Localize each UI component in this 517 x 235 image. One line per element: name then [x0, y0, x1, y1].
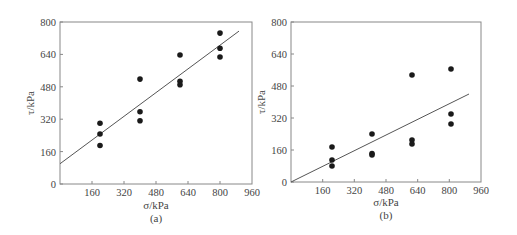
chart-b-ytick-label: 160	[271, 145, 287, 156]
chart-b-xtick-label: 480	[378, 185, 394, 196]
chart-a-xtick-label: 800	[212, 187, 228, 198]
chart-a-xtick-label: 160	[84, 187, 100, 198]
chart-b-ytick-label: 320	[271, 113, 287, 124]
chart-a-xaxis-title: σ/kPa	[143, 199, 169, 211]
chart-a-ytick-label: 640	[40, 49, 56, 60]
chart-a: 0 160 320 480 640 800 160 320 480 640 80…	[24, 17, 260, 225]
chart-b: 0 160 320 480 640 800 160 320 480 640 80…	[255, 17, 489, 222]
chart-a-ytick-label: 160	[40, 147, 56, 158]
chart-a-fit-line	[60, 31, 239, 164]
chart-b-yaxis-title: τ/kPa	[255, 90, 267, 114]
chart-b-ytick-label: 800	[271, 17, 287, 28]
chart-a-yaxis-title: τ/kPa	[24, 91, 36, 115]
chart-a-frame	[60, 22, 252, 184]
chart-b-xaxis-title: σ/kPa	[373, 196, 399, 208]
chart-b-ytick-label: 0	[282, 177, 287, 188]
chart-a-ytick-label: 480	[40, 82, 56, 93]
chart-b-ytick-label: 640	[271, 49, 287, 60]
chart-b-xtick-label: 320	[346, 185, 362, 196]
chart-a-xtick-label: 480	[148, 187, 164, 198]
chart-b-xtick-label: 800	[441, 185, 457, 196]
chart-a-xtick-label: 640	[180, 187, 196, 198]
chart-a-xtick-label: 320	[116, 187, 132, 198]
chart-a-panel-label: (a)	[150, 212, 163, 225]
chart-a-ytick-label: 320	[40, 114, 56, 125]
chart-b-xtick-label: 960	[473, 185, 489, 196]
chart-a-ytick-label: 0	[51, 179, 56, 190]
chart-a-xtick-label: 960	[244, 187, 260, 198]
chart-b-xtick-label: 640	[410, 185, 426, 196]
chart-b-panel-label: (b)	[380, 209, 393, 222]
chart-b-ytick-label: 480	[271, 81, 287, 92]
chart-b-xtick-label: 160	[315, 185, 331, 196]
figure: 0 160 320 480 640 800 160 320 480 640 80…	[0, 0, 517, 235]
chart-a-ytick-label: 800	[40, 17, 56, 28]
chart-b-fit-line	[291, 94, 469, 182]
